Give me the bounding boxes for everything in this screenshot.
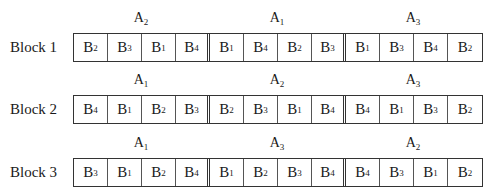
main-plot-label: A3 — [393, 72, 433, 89]
subplot-cell: B4 — [312, 159, 346, 186]
subplot-cell: B2 — [74, 34, 108, 61]
block-label: Block 3 — [10, 164, 57, 181]
plot-strip: B2B3B1B4B1B4B2B3B1B3B4B2 — [73, 33, 483, 62]
subplot-cell: B3 — [278, 159, 312, 186]
subplot-cell: B2 — [210, 96, 244, 123]
subplot-cell: B2 — [142, 96, 176, 123]
subplot-cell: B3 — [244, 96, 278, 123]
main-plot-label: A1 — [121, 72, 161, 89]
subplot-cell: B1 — [210, 34, 244, 61]
subplot-cell: B3 — [380, 34, 414, 61]
block-row: Block 3A1A3A2B3B1B2B4B1B2B3B4B4B3B1B2 — [0, 133, 495, 195]
subplot-cell: B4 — [414, 34, 448, 61]
block-row: Block 2A1A2A3B4B1B2B3B2B3B1B4B4B1B3B2 — [0, 70, 495, 132]
subplot-cell: B2 — [448, 34, 482, 61]
subplot-cell: B1 — [108, 96, 142, 123]
subplot-cell: B4 — [346, 159, 380, 186]
block-label: Block 2 — [10, 101, 57, 118]
subplot-cell: B3 — [312, 34, 346, 61]
subplot-cell: B2 — [278, 34, 312, 61]
subplot-cell: B3 — [414, 96, 448, 123]
subplot-cell: B2 — [448, 159, 482, 186]
subplot-cell: B3 — [176, 96, 210, 123]
subplot-cell: B3 — [108, 34, 142, 61]
subplot-cell: B1 — [108, 159, 142, 186]
subplot-cell: B4 — [176, 34, 210, 61]
subplot-cell: B1 — [278, 96, 312, 123]
subplot-cell: B4 — [312, 96, 346, 123]
block-row: Block 1A2A1A3B2B3B1B4B1B4B2B3B1B3B4B2 — [0, 8, 495, 70]
subplot-cell: B2 — [448, 96, 482, 123]
subplot-cell: B1 — [346, 34, 380, 61]
block-label: Block 1 — [10, 39, 57, 56]
main-plot-label: A1 — [121, 135, 161, 152]
main-plot-label: A1 — [257, 10, 297, 27]
main-plot-label: A2 — [393, 135, 433, 152]
main-plot-label: A3 — [393, 10, 433, 27]
subplot-cell: B4 — [346, 96, 380, 123]
plot-strip: B4B1B2B3B2B3B1B4B4B1B3B2 — [73, 95, 483, 124]
subplot-cell: B1 — [380, 96, 414, 123]
subplot-cell: B3 — [74, 159, 108, 186]
subplot-cell: B1 — [210, 159, 244, 186]
subplot-cell: B1 — [142, 34, 176, 61]
subplot-cell: B4 — [244, 34, 278, 61]
plot-strip: B3B1B2B4B1B2B3B4B4B3B1B2 — [73, 158, 483, 187]
main-plot-label: A2 — [257, 72, 297, 89]
subplot-cell: B2 — [244, 159, 278, 186]
main-plot-label: A2 — [121, 10, 161, 27]
subplot-cell: B4 — [176, 159, 210, 186]
main-plot-label: A3 — [257, 135, 297, 152]
subplot-cell: B4 — [74, 96, 108, 123]
subplot-cell: B2 — [142, 159, 176, 186]
subplot-cell: B3 — [380, 159, 414, 186]
subplot-cell: B1 — [414, 159, 448, 186]
